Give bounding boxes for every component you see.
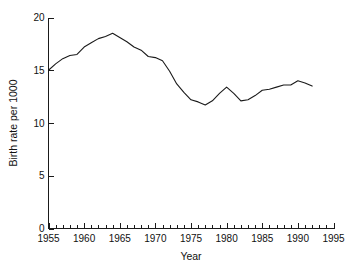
chart-page: 195519601965197019751980198519901995 051… [0,0,350,269]
y-tick-label: 20 [33,12,45,23]
y-axis-ticks [49,19,54,230]
plot-area: 195519601965197019751980198519901995 051… [33,12,345,244]
x-axis-title: Year [180,250,202,262]
birth-rate-series-line [49,33,313,105]
x-tick-label: 1975 [180,233,203,244]
birth-rate-line-chart: 195519601965197019751980198519901995 051… [0,0,350,269]
x-axis-ticks [50,223,335,229]
y-axis-title: Birth rate per 1000 [7,79,19,166]
x-tick-label: 1960 [73,233,96,244]
x-axis-tick-labels: 195519601965197019751980198519901995 [37,233,345,244]
y-tick-label: 0 [39,223,45,234]
x-tick-label: 1990 [287,233,310,244]
y-axis-tick-labels: 05101520 [33,12,45,234]
x-tick-label: 1970 [144,233,167,244]
x-tick-label: 1985 [251,233,274,244]
y-tick-label: 10 [33,118,45,129]
y-tick-label: 5 [39,170,45,181]
x-tick-label: 1965 [109,233,132,244]
x-tick-label: 1955 [37,233,60,244]
x-tick-label: 1980 [216,233,239,244]
y-tick-label: 15 [33,65,45,76]
x-tick-label: 1995 [322,233,345,244]
